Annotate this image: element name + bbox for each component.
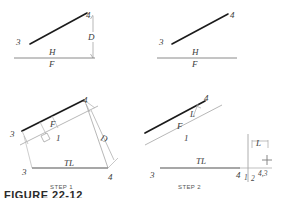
- figure-caption: FIGURE 22-12: [4, 189, 83, 198]
- label-ref-1-step1: 1: [56, 133, 61, 143]
- panel-top-right: 3 4 H F: [157, 10, 237, 69]
- label-true-length-step1: TL: [64, 158, 74, 168]
- right-angle-marker-step1: [41, 133, 50, 142]
- label-point-3-step1-tl: 3: [21, 167, 27, 177]
- dimension-arrow-top: [91, 15, 94, 19]
- label-true-length-step2: TL: [196, 156, 206, 166]
- label-point-3-step1-aux: 3: [9, 129, 15, 139]
- label-ref-1-step2: 1: [184, 133, 189, 143]
- label-point-3-top-left: 3: [15, 37, 21, 47]
- label-ref-f-step1: F: [49, 119, 56, 129]
- step-label-2: STEP 2: [178, 184, 201, 190]
- line-3-4-top-left: [30, 13, 87, 44]
- figure-caption-group: FIGURE 22-12: [4, 189, 83, 198]
- dimension-ext-d-bottom-step1: [108, 158, 118, 168]
- label-ref-2-right-step2: 2: [251, 174, 255, 183]
- dimension-arrow-bottom: [91, 54, 94, 58]
- label-ref-f-top-left: F: [48, 59, 55, 69]
- tick-fold-a-step1: [40, 122, 46, 134]
- descriptive-geometry-drawing: 3 4 D H F 3 4 H F: [0, 0, 288, 198]
- panel-step-1: 3 4 F 1 D TL 3 4 STEP 1: [9, 95, 118, 190]
- label-point-3-step2-tl: 3: [149, 170, 155, 180]
- label-ref-f-top-right: F: [191, 59, 198, 69]
- label-ref-f-step2: F: [176, 121, 183, 131]
- label-dimension-d-top-left: D: [87, 32, 95, 42]
- label-point-view-step2: 4,3: [258, 169, 268, 178]
- label-point-4-step2-aux: 4: [204, 93, 209, 103]
- label-ref-h-top-right: H: [191, 47, 199, 57]
- label-ref-h-top-left: H: [48, 47, 56, 57]
- label-point-3-top-right: 3: [158, 37, 164, 47]
- panel-top-left: 3 4 D H F: [14, 10, 95, 69]
- label-point-4-step2-tl: 4: [236, 170, 241, 180]
- label-dimension-d-step1: D: [98, 132, 109, 144]
- label-point-4-top-left: 4: [86, 10, 91, 20]
- figure-root: 3 4 D H F 3 4 H F: [0, 0, 288, 198]
- projector-3-step1: [22, 131, 28, 144]
- line-3-4-top-right: [172, 14, 228, 44]
- label-dimension-l-right-step2: L: [255, 138, 261, 148]
- label-ref-l-step2: L: [189, 109, 195, 119]
- label-point-4-top-right: 4: [230, 10, 235, 20]
- label-point-4-step1-tl: 4: [108, 172, 113, 182]
- line-3-4-step2-aux: [145, 101, 205, 133]
- label-point-4-step1-aux: 4: [83, 95, 88, 105]
- panel-step-2: 4 L F 1 TL 3 4 1 2 4,3 L STEP 2: [145, 93, 272, 190]
- label-ref-1-right-step2: 1: [244, 173, 248, 182]
